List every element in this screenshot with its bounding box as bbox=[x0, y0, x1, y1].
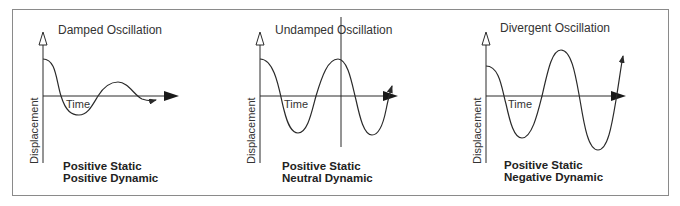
x-axis-label: Time bbox=[284, 98, 308, 110]
static-stability: Positive Static bbox=[282, 160, 373, 172]
static-stability: Positive Static bbox=[504, 159, 603, 171]
stability-label-damped: Positive Static Positive Dynamic bbox=[63, 160, 158, 184]
dynamic-stability: Positive Dynamic bbox=[63, 172, 158, 184]
x-axis-label: Time bbox=[66, 98, 90, 110]
y-axis-arrow-icon bbox=[39, 32, 47, 45]
panel-title-damped: Damped Oscillation bbox=[58, 23, 162, 37]
undamped-panel-graph bbox=[256, 17, 398, 163]
y-axis-label: Displacement bbox=[28, 97, 40, 164]
y-axis-label: Displacement bbox=[245, 97, 257, 164]
x-axis-arrow-icon bbox=[164, 91, 179, 101]
static-stability: Positive Static bbox=[63, 160, 158, 172]
stability-label-divergent: Positive Static Negative Dynamic bbox=[504, 159, 603, 183]
dynamic-stability: Negative Dynamic bbox=[504, 171, 603, 183]
x-axis-arrow-icon bbox=[611, 91, 626, 101]
damped-panel-graph bbox=[39, 32, 179, 163]
y-axis-arrow-icon bbox=[256, 32, 264, 45]
y-axis-label: Displacement bbox=[471, 97, 483, 164]
panel-title-undamped: Undamped Oscillation bbox=[275, 23, 392, 37]
x-axis-label: Time bbox=[508, 98, 532, 110]
panel-title-divergent: Divergent Oscillation bbox=[500, 21, 610, 35]
undamped-curve bbox=[260, 59, 392, 135]
damped-curve bbox=[43, 59, 156, 115]
y-axis-arrow-icon bbox=[482, 32, 490, 45]
dynamic-stability: Neutral Dynamic bbox=[282, 172, 373, 184]
divergent-panel-graph bbox=[482, 32, 626, 163]
stability-label-undamped: Positive Static Neutral Dynamic bbox=[282, 160, 373, 184]
divergent-curve bbox=[486, 50, 623, 150]
